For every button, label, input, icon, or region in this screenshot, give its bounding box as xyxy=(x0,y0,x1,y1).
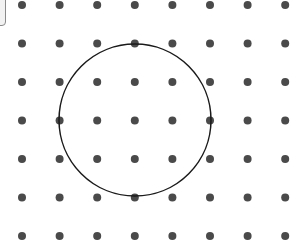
grid-dot xyxy=(93,78,101,86)
grid-dot xyxy=(18,1,26,9)
diagram-canvas xyxy=(0,0,301,250)
grid-dot xyxy=(131,117,139,125)
grid-dot xyxy=(206,232,214,240)
grid-dot xyxy=(206,117,214,125)
grid-dot xyxy=(206,78,214,86)
grid-dot xyxy=(281,194,289,202)
grid-dot xyxy=(281,40,289,48)
grid-dot xyxy=(18,40,26,48)
grid-dot xyxy=(281,78,289,86)
grid-dot xyxy=(244,194,252,202)
grid-dot xyxy=(18,194,26,202)
grid-dot xyxy=(131,1,139,9)
grid-dot xyxy=(206,194,214,202)
grid-dot xyxy=(131,78,139,86)
grid-dot xyxy=(281,155,289,163)
grid-dot xyxy=(93,194,101,202)
grid-dot xyxy=(56,1,64,9)
grid-dot xyxy=(131,194,139,202)
grid-dot xyxy=(168,117,176,125)
grid-dot xyxy=(56,78,64,86)
grid-dot xyxy=(281,1,289,9)
grid-dot xyxy=(206,1,214,9)
edge-tab-partial xyxy=(0,0,6,26)
grid-dot xyxy=(131,232,139,240)
grid-dot xyxy=(206,155,214,163)
grid-dot xyxy=(93,155,101,163)
grid-dot xyxy=(244,232,252,240)
grid-dot xyxy=(244,1,252,9)
grid-dot xyxy=(93,117,101,125)
grid-dot xyxy=(131,155,139,163)
grid-dot xyxy=(56,40,64,48)
grid-dot xyxy=(18,155,26,163)
grid-dot xyxy=(168,194,176,202)
grid-dot xyxy=(244,117,252,125)
grid-dot xyxy=(281,232,289,240)
grid-dot xyxy=(18,117,26,125)
grid-dot xyxy=(168,232,176,240)
grid-dot xyxy=(206,40,214,48)
grid-dot xyxy=(93,232,101,240)
grid-dot xyxy=(56,232,64,240)
grid-dot xyxy=(93,40,101,48)
grid-dot xyxy=(168,40,176,48)
grid-dot xyxy=(18,78,26,86)
grid-dot xyxy=(168,78,176,86)
grid-dot xyxy=(244,40,252,48)
grid-dot xyxy=(93,1,101,9)
grid-dot xyxy=(281,117,289,125)
grid-dot xyxy=(18,232,26,240)
dot-grid-svg xyxy=(0,0,301,250)
grid-dot xyxy=(244,78,252,86)
grid-dot xyxy=(244,155,252,163)
grid-dot xyxy=(168,1,176,9)
grid-dot xyxy=(168,155,176,163)
grid-dot xyxy=(56,194,64,202)
grid-dot xyxy=(56,155,64,163)
